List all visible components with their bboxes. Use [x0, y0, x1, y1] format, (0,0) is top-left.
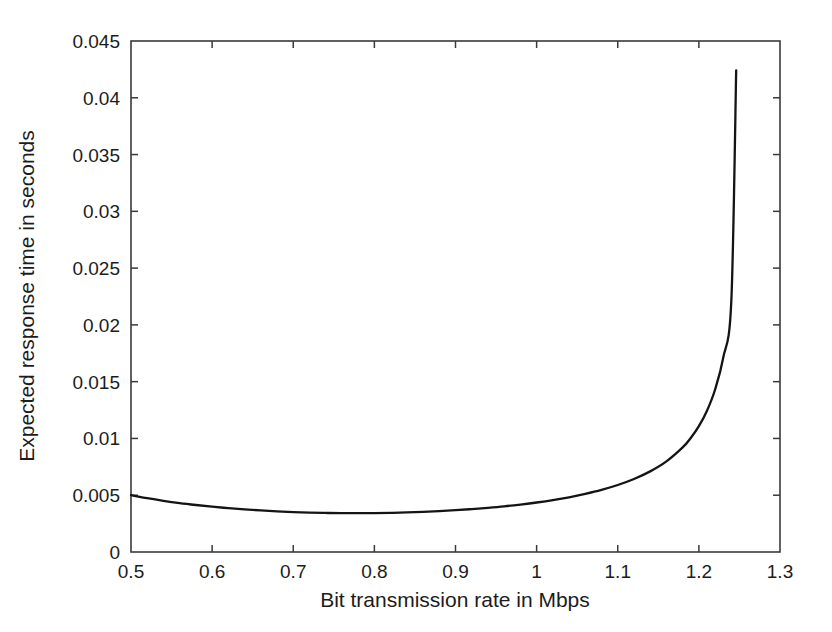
x-tick-label: 0.6 — [199, 561, 225, 582]
x-tick-label: 0.8 — [361, 561, 387, 582]
y-tick-label: 0.005 — [72, 485, 120, 506]
x-axis-title: Bit transmission rate in Mbps — [320, 588, 590, 611]
x-tick-label: 0.5 — [118, 561, 144, 582]
y-tick-label: 0.04 — [83, 88, 120, 109]
x-tick-label: 1 — [531, 561, 542, 582]
x-tick-label: 0.9 — [442, 561, 468, 582]
x-tick-label: 1.1 — [605, 561, 631, 582]
chart-figure: 0.50.60.70.80.911.11.21.3 00.0050.010.01… — [0, 0, 832, 632]
y-tick-label: 0.035 — [72, 145, 120, 166]
y-tick-label: 0.015 — [72, 372, 120, 393]
y-tick-label: 0.01 — [83, 428, 120, 449]
x-tick-label: 0.7 — [280, 561, 306, 582]
y-tick-label: 0 — [109, 542, 120, 563]
y-tick-label: 0.025 — [72, 258, 120, 279]
x-tick-label: 1.3 — [767, 561, 793, 582]
response-time-line-chart: 0.50.60.70.80.911.11.21.3 00.0050.010.01… — [0, 0, 832, 632]
x-axis-tick-labels: 0.50.60.70.80.911.11.21.3 — [118, 561, 793, 582]
y-tick-label: 0.03 — [83, 201, 120, 222]
figure-background — [0, 0, 832, 632]
y-axis-title: Expected response time in seconds — [15, 130, 38, 462]
y-tick-label: 0.02 — [83, 315, 120, 336]
x-tick-label: 1.2 — [686, 561, 712, 582]
y-tick-label: 0.045 — [72, 31, 120, 52]
